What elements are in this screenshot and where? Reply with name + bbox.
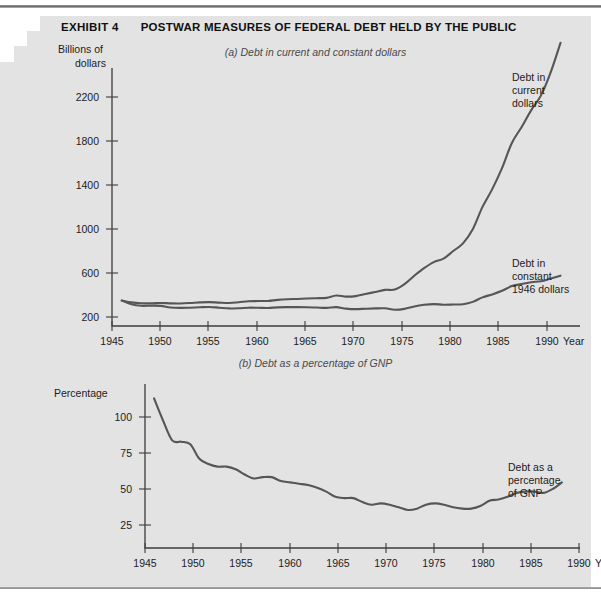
- panel-a-y-axis-title-line2: dollars: [75, 57, 106, 69]
- annotation-debt-percentage-gnp: Debt as a percentage of GNP: [508, 461, 561, 499]
- panel-a-xtick-1980: 1980: [438, 335, 462, 347]
- panel-b-xtick-1990: 1990: [567, 557, 591, 569]
- exhibit-number: EXHIBIT 4: [61, 21, 119, 33]
- annotation-debt-current-dollars: Debt in current dollars: [512, 71, 545, 109]
- panel-b-xtick-1980: 1980: [471, 557, 495, 569]
- panel-a-svg: 200 600 1000 1400 1800 2200 Billions of …: [40, 60, 591, 360]
- panel-a-xtick-1955: 1955: [196, 335, 220, 347]
- panel-b-caption: (b) Debt as a percentage of GNP: [40, 357, 591, 369]
- annotation-current-line1: Debt in: [512, 71, 545, 83]
- panel-a-xtick-1970: 1970: [341, 335, 365, 347]
- panel-b-xtick-1975: 1975: [422, 557, 446, 569]
- top-rule: [0, 5, 601, 8]
- panel-b-xtick-1985: 1985: [519, 557, 543, 569]
- panel-b-x-axis-title: Year: [595, 557, 601, 569]
- panel-a-y-axis-title-line1: Billions of: [58, 43, 103, 55]
- chart-panel-b: 25 50 75 100 Percentage 1945: [40, 376, 591, 596]
- panel-b-xtick-1960: 1960: [278, 557, 302, 569]
- panel-b-ytick-100: 100: [114, 411, 132, 423]
- series-debt-current-dollars: [122, 43, 561, 304]
- panel-a-caption: (a) Debt in current and constant dollars: [40, 46, 591, 58]
- annotation-constant-line2: constant: [512, 270, 552, 282]
- panel-a-ytick-200: 200: [81, 311, 99, 323]
- panel-a-xtick-1945: 1945: [100, 335, 124, 347]
- panel-b-y-axis-title: Percentage: [54, 387, 108, 399]
- panel-a-xtick-1975: 1975: [390, 335, 414, 347]
- panel-b-ytick-50: 50: [120, 483, 132, 495]
- exhibit-page: EXHIBIT 4 POSTWAR MEASURES OF FEDERAL DE…: [0, 0, 601, 597]
- annotation-current-line2: current: [512, 84, 545, 96]
- panel-a-x-axis-title: Year: [563, 335, 585, 347]
- page-title: POSTWAR MEASURES OF FEDERAL DEBT HELD BY…: [141, 21, 517, 33]
- exhibit-plate: EXHIBIT 4 POSTWAR MEASURES OF FEDERAL DE…: [40, 16, 591, 589]
- panel-b-svg: 25 50 75 100 Percentage 1945: [40, 376, 591, 596]
- annotation-gnp-line2: percentage: [508, 474, 561, 486]
- panel-b-xtick-1950: 1950: [181, 557, 205, 569]
- chart-panel-a: 200 600 1000 1400 1800 2200 Billions of …: [40, 60, 591, 360]
- panel-b-xtick-1945: 1945: [133, 557, 157, 569]
- annotation-constant-line3: 1946 dollars: [512, 283, 569, 295]
- panel-a-ytick-600: 600: [81, 267, 99, 279]
- series-debt-percentage-gnp: [154, 398, 562, 510]
- panel-b-ytick-25: 25: [120, 519, 132, 531]
- panel-a-xtick-1990: 1990: [535, 335, 559, 347]
- panel-a-ytick-1000: 1000: [76, 223, 100, 235]
- annotation-gnp-line1: Debt as a: [508, 461, 553, 473]
- panel-a-ytick-2200: 2200: [76, 91, 100, 103]
- panel-b-xtick-1970: 1970: [374, 557, 398, 569]
- panel-a-ytick-1400: 1400: [76, 179, 100, 191]
- annotation-gnp-line3: of GNP: [508, 487, 542, 499]
- bottom-rule: [0, 587, 601, 589]
- panel-a-xtick-1950: 1950: [148, 335, 172, 347]
- panel-b-xtick-1955: 1955: [229, 557, 253, 569]
- annotation-constant-line1: Debt in: [512, 257, 545, 269]
- panel-b-ytick-75: 75: [120, 447, 132, 459]
- panel-a-xtick-1960: 1960: [245, 335, 269, 347]
- annotation-current-line3: dollars: [512, 97, 543, 109]
- panel-b-xtick-1965: 1965: [326, 557, 350, 569]
- panel-a-xtick-1965: 1965: [293, 335, 317, 347]
- series-debt-constant-dollars: [122, 276, 561, 310]
- right-margin-strip: [591, 8, 601, 589]
- panel-a-ytick-1800: 1800: [76, 135, 100, 147]
- exhibit-header: EXHIBIT 4 POSTWAR MEASURES OF FEDERAL DE…: [61, 21, 517, 33]
- panel-a-xtick-1985: 1985: [486, 335, 510, 347]
